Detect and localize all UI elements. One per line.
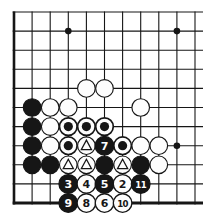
move-number: 5 [101, 178, 109, 191]
stone-white-triangle-mark [78, 156, 96, 174]
stone-black-circle-mark [114, 137, 132, 155]
circle-mark-dot [82, 122, 91, 131]
circle-mark-dot [118, 141, 127, 150]
stone-white [132, 99, 150, 117]
stone-white [41, 99, 59, 117]
circle-mark-dot [64, 141, 73, 150]
stone-black-circle-mark [60, 118, 78, 136]
stone-white-move-10: 10 [113, 194, 132, 213]
stone-black-move-11: 11 [131, 175, 150, 194]
stone-black [23, 137, 41, 155]
stone-black-move-5: 5 [95, 175, 114, 194]
stone-white [41, 118, 59, 136]
move-number: 10 [117, 199, 128, 209]
star-point [65, 28, 72, 35]
star-point [174, 142, 181, 149]
circle-mark-dot [64, 122, 73, 131]
move-number: 7 [101, 140, 109, 153]
go-diagram: 734521198610 [0, 0, 205, 220]
move-number: 11 [135, 180, 146, 190]
stone-white-move-2: 2 [113, 175, 132, 194]
stone-white-move-6: 6 [95, 194, 114, 213]
stone-white [41, 137, 59, 155]
stone-white [132, 137, 150, 155]
circle-mark-dot [100, 122, 109, 131]
stone-black [23, 156, 41, 174]
stone-white [78, 80, 96, 98]
stone-white [150, 137, 168, 155]
stone-black-circle-mark [60, 137, 78, 155]
stone-white [60, 99, 78, 117]
stone-black-circle-mark [78, 118, 96, 136]
stone-black [23, 99, 41, 117]
stone-white [150, 156, 168, 174]
move-number: 6 [101, 197, 109, 210]
stone-black [96, 156, 114, 174]
stone-black-circle-mark [96, 118, 114, 136]
stone-black [41, 156, 59, 174]
stone-black-move-7: 7 [95, 136, 114, 155]
go-board: 734521198610 [0, 0, 205, 220]
stone-black-move-3: 3 [59, 175, 78, 194]
star-point [174, 28, 181, 35]
stone-white-move-8: 8 [77, 194, 96, 213]
move-number: 8 [83, 197, 91, 210]
move-number: 2 [119, 178, 127, 191]
stone-white-triangle-mark [60, 156, 78, 174]
stone-white-triangle-mark [78, 137, 96, 155]
stone-black [23, 118, 41, 136]
stone-black [132, 156, 150, 174]
stone-white-triangle-mark [114, 156, 132, 174]
move-number: 3 [64, 178, 72, 191]
stone-black-move-9: 9 [59, 194, 78, 213]
move-number: 9 [64, 197, 72, 210]
stone-white-move-4: 4 [77, 175, 96, 194]
stone-white [96, 80, 114, 98]
move-number: 4 [83, 178, 91, 191]
